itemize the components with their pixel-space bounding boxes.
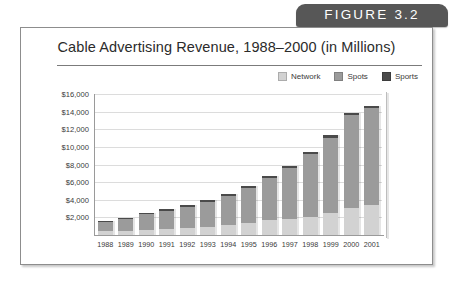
bar-shadow [113,221,115,235]
bar-segment-spots [241,188,256,223]
bar-series-container [95,94,382,235]
legend-swatch-icon [278,72,287,81]
y-axis-tick-label: $6,000 [27,178,89,187]
y-axis-tick-label: $10,000 [27,142,89,151]
y-axis-tick-label: $2,000 [27,213,89,222]
bar-segment-spots [282,168,297,218]
bar-column[interactable] [303,152,318,235]
legend-item: Spots [334,72,367,81]
bar-column[interactable] [118,218,133,235]
y-axis-tick-label: $4,000 [27,195,89,204]
legend-item: Sports [382,72,418,81]
bar-segment-network [241,223,256,235]
bar-segment-network [118,231,133,235]
bar-column[interactable] [159,209,174,235]
bar-segment-network [159,229,174,235]
bar-segment-spots [364,108,379,205]
chart-plot-area: $16,000$14,000$12,000$10,000$8,000$6,000… [21,88,434,266]
bar-segment-spots [200,202,215,227]
chart-title: Cable Advertising Revenue, 1988–2000 (in… [21,39,432,55]
figure-card: Cable Advertising Revenue, 1988–2000 (in… [20,27,433,265]
bar-segment-network [282,219,297,235]
bar-column[interactable] [241,186,256,235]
bar-segment-network [221,225,236,235]
legend-label: Spots [347,72,367,81]
bar-column[interactable] [364,106,379,235]
bar-segment-spots [139,214,154,230]
bar-column[interactable] [344,113,359,235]
bar-segment-spots [180,207,195,228]
bar-shadow [379,106,381,235]
bar-segment-spots [303,154,318,216]
bar-segment-network [180,228,195,235]
bar-shadow [256,186,258,235]
bar-segment-spots [159,211,174,229]
bar-shadow [215,200,217,235]
y-axis-tick-label: $14,000 [27,107,89,116]
bar-shadow [318,152,320,235]
y-axis-tick-label: $12,000 [27,125,89,134]
bar-column[interactable] [221,194,236,235]
bar-segment-network [98,231,113,235]
bar-shadow [297,166,299,235]
bar-column[interactable] [180,205,195,235]
bar-column[interactable] [282,166,297,235]
bar-shadow [195,205,197,235]
bar-segment-spots [262,178,277,221]
y-axis-tick-label: $8,000 [27,160,89,169]
bar-column[interactable] [200,200,215,235]
bar-segment-network [139,230,154,235]
bar-shadow [338,135,340,235]
bar-column[interactable] [98,221,113,235]
plot-right-wall-shadow [387,93,389,239]
legend-swatch-icon [382,72,391,81]
bar-segment-network [323,213,338,235]
legend-label: Network [291,72,320,81]
bar-shadow [359,113,361,235]
legend-label: Sports [395,72,418,81]
bar-column[interactable] [323,135,338,235]
legend-swatch-icon [334,72,343,81]
chart-legend: NetworkSpotsSports [21,72,418,81]
legend-item: Network [278,72,320,81]
x-axis-tick-label: 2001 [357,240,387,249]
bar-shadow [154,213,156,235]
bar-segment-network [344,208,359,235]
bar-segment-network [200,227,215,235]
bar-column[interactable] [139,213,154,235]
bar-segment-network [262,220,277,235]
bar-shadow [236,194,238,235]
bar-shadow [277,176,279,235]
bar-segment-network [364,205,379,235]
bar-segment-spots [118,219,133,231]
bar-segment-spots [98,222,113,232]
x-axis-line [94,235,384,236]
figure-tab: FIGURE 3.2 [296,4,448,27]
bar-shadow [174,209,176,235]
bar-column[interactable] [262,176,277,235]
figure-tab-label: FIGURE 3.2 [296,7,448,22]
y-axis-tick-label: $16,000 [27,90,89,99]
bar-segment-spots [344,115,359,208]
bar-shadow [133,218,135,235]
bar-segment-spots [221,196,236,225]
bar-segment-network [303,217,318,236]
title-divider [57,65,422,66]
bar-segment-spots [323,138,338,212]
